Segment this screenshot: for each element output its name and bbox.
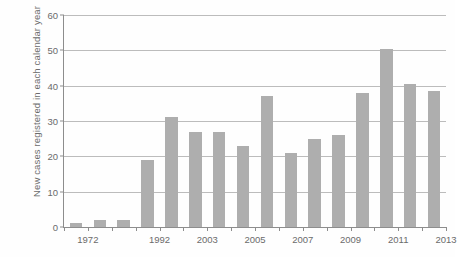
y-tick-label: 60 <box>47 10 64 21</box>
y-tick-label: 20 <box>47 151 64 162</box>
x-tick-label: 2003 <box>197 234 218 245</box>
x-tick-label: 1992 <box>149 234 170 245</box>
bar <box>428 91 440 227</box>
bar <box>285 153 297 227</box>
bar <box>70 223 82 227</box>
bar <box>189 132 201 227</box>
plot-area: 0102030405060 19721992200320052007200920… <box>63 15 446 228</box>
y-tick-label: 0 <box>53 222 64 233</box>
bar <box>117 220 129 227</box>
x-tick-mark <box>112 227 113 231</box>
x-tick-mark <box>231 227 232 231</box>
x-tick-label: 2007 <box>292 234 313 245</box>
x-tick-mark <box>207 227 208 231</box>
x-tick-mark <box>160 227 161 231</box>
x-tick-mark <box>64 227 65 231</box>
bar <box>94 220 106 227</box>
x-tick-mark <box>255 227 256 231</box>
x-tick-label: 2009 <box>340 234 361 245</box>
x-tick-label: 1972 <box>77 234 98 245</box>
bar <box>356 93 368 227</box>
bar <box>141 160 153 227</box>
x-tick-mark <box>279 227 280 231</box>
x-tick-label: 2013 <box>435 234 456 245</box>
bar <box>380 49 392 227</box>
x-tick-mark <box>303 227 304 231</box>
y-axis-title: New cases registered in each calendar ye… <box>31 0 42 207</box>
x-tick-mark <box>136 227 137 231</box>
x-tick-mark <box>183 227 184 231</box>
bar <box>237 146 249 227</box>
x-tick-mark <box>446 227 447 231</box>
x-tick-label: 2011 <box>388 234 408 245</box>
y-tick-label: 50 <box>47 45 64 56</box>
x-tick-mark <box>351 227 352 231</box>
x-tick-mark <box>88 227 89 231</box>
bar <box>308 139 320 227</box>
y-tick-label: 10 <box>47 186 64 197</box>
bar <box>261 96 273 227</box>
x-tick-mark <box>374 227 375 231</box>
bar <box>213 132 225 227</box>
x-tick-mark <box>422 227 423 231</box>
y-tick-label: 40 <box>47 80 64 91</box>
bar <box>332 135 344 227</box>
bar-series <box>64 15 446 227</box>
bar <box>404 84 416 227</box>
y-tick-label: 30 <box>47 116 64 127</box>
x-tick-label: 2005 <box>244 234 265 245</box>
x-tick-mark <box>327 227 328 231</box>
bar <box>165 117 177 227</box>
x-tick-mark <box>398 227 399 231</box>
